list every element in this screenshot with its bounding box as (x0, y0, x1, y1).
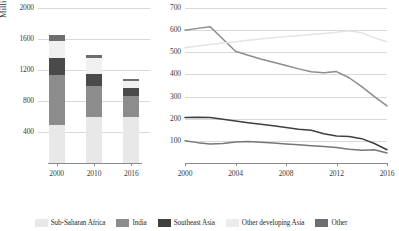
legend-label: Sub-Saharan Africa (51, 219, 106, 227)
x-axis-tick-label: 2000 (43, 169, 71, 178)
bar-segment[interactable] (123, 117, 139, 164)
legend-swatch (315, 219, 328, 227)
line-series[interactable] (185, 117, 387, 150)
line-series[interactable] (185, 27, 387, 106)
x-axis-tickmark (185, 163, 186, 166)
bar-column[interactable] (86, 8, 102, 163)
bar-segment[interactable] (49, 41, 65, 59)
x-axis-tickmark (57, 163, 58, 166)
x-axis-tickmark (337, 163, 338, 166)
bar-segment[interactable] (86, 86, 102, 116)
y-axis-tick-label: 1600 (19, 34, 34, 43)
legend-swatch (35, 219, 48, 227)
x-axis-tickmark (286, 163, 287, 166)
axis-line (48, 163, 142, 164)
x-axis-tick-label: 2010 (80, 169, 108, 178)
y-axis-tick-label: 800 (23, 96, 34, 105)
bar-segment[interactable] (123, 81, 139, 88)
legend-label: Other developing Asia (242, 219, 305, 227)
x-axis-tick-label: 2000 (171, 169, 199, 178)
x-axis-tick-label: 2016 (373, 169, 399, 178)
bar-segment[interactable] (49, 35, 65, 40)
bar-column[interactable] (49, 8, 65, 163)
x-axis-tick-label: 2016 (117, 169, 145, 178)
stacked-bar-chart: Million People 400800120016002000 200020… (0, 0, 155, 196)
bar-column[interactable] (123, 8, 139, 163)
legend-label: Southeast Asia (174, 219, 215, 227)
bar-segment[interactable] (49, 58, 65, 75)
bar-segment[interactable] (123, 96, 139, 117)
y-axis-tick-label: 400 (23, 127, 34, 136)
bar-segment[interactable] (86, 117, 102, 164)
bar-segment[interactable] (86, 74, 102, 86)
legend-label: Other (331, 219, 347, 227)
bar-segment[interactable] (86, 55, 102, 59)
legend-swatch (158, 219, 171, 227)
legend-swatch (116, 219, 129, 227)
legend-label: India (132, 219, 146, 227)
bar-segment[interactable] (123, 88, 139, 95)
y-axis-tick-label: 2000 (19, 3, 34, 12)
x-axis-tickmark (387, 163, 388, 166)
y-axis-title: Million People (0, 0, 8, 18)
bar-segment[interactable] (49, 125, 65, 163)
legend-item[interactable]: Other developing Asia (226, 219, 305, 227)
line-series-group (155, 0, 393, 196)
x-axis-tick-label: 2008 (272, 169, 300, 178)
x-axis-tickmark (131, 163, 132, 166)
bar-segment[interactable] (49, 75, 65, 125)
line-chart: 100200300400500600700 200020042008201220… (155, 0, 393, 196)
legend-item[interactable]: Southeast Asia (158, 219, 215, 227)
line-series[interactable] (185, 31, 387, 48)
legend-swatch (226, 219, 239, 227)
legend-item[interactable]: Other (315, 219, 347, 227)
bar-segment[interactable] (86, 58, 102, 74)
x-axis-tickmark (236, 163, 237, 166)
y-axis-tick-label: 1200 (19, 65, 34, 74)
legend-item[interactable]: Sub-Saharan Africa (35, 219, 106, 227)
line-series[interactable] (185, 141, 387, 153)
bar-segment[interactable] (123, 79, 139, 81)
chart-legend: Sub-Saharan AfricaIndiaSoutheast AsiaOth… (0, 219, 393, 227)
x-axis-tick-label: 2012 (323, 169, 351, 178)
x-axis-tickmark (94, 163, 95, 166)
x-axis-tick-label: 2004 (222, 169, 250, 178)
legend-item[interactable]: India (116, 219, 146, 227)
